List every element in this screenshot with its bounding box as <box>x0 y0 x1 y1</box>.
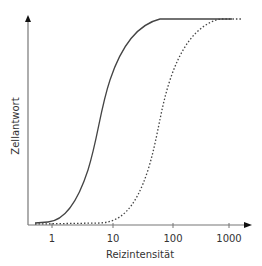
x-axis-label: Reizintensität <box>106 249 174 260</box>
x-tick-label: 100 <box>163 233 182 244</box>
x-tick-label: 10 <box>107 233 120 244</box>
x-tick-label: 1 <box>49 233 55 244</box>
y-axis-label: Zellantwort <box>10 97 21 154</box>
solid-curve <box>35 19 232 223</box>
dotted-curve <box>35 19 242 224</box>
x-axis-arrow-icon <box>244 222 252 228</box>
x-tick-label: 1000 <box>216 233 241 244</box>
sigmoid-chart: 1 10 100 1000 Reizintensität Zellantwort <box>0 0 262 266</box>
y-axis-arrow-icon <box>25 15 31 22</box>
